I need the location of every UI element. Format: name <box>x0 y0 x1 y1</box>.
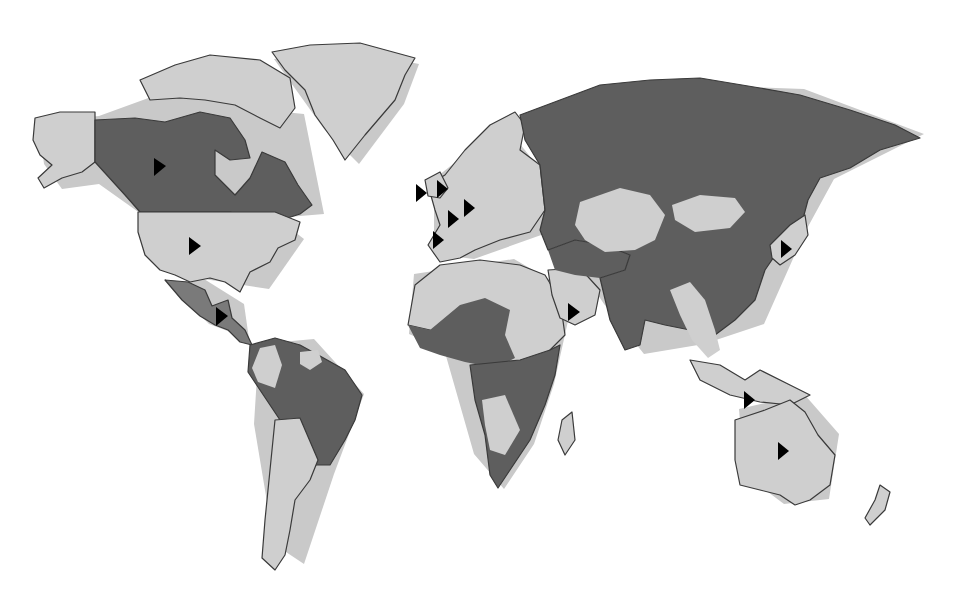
world-map-svg <box>0 0 953 593</box>
marker-ireland[interactable] <box>416 184 427 202</box>
region-new-zealand <box>865 485 890 525</box>
region-madagascar <box>558 412 575 455</box>
region-usa <box>138 212 300 292</box>
world-map <box>0 0 953 593</box>
